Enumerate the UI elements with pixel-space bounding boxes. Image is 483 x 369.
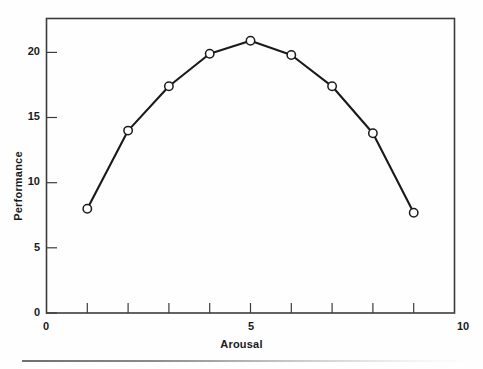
data-point [206, 50, 214, 58]
data-point [165, 82, 173, 90]
x-tick-label-5: 5 [236, 320, 266, 332]
y-tick-label-0: 0 [10, 306, 40, 318]
data-point [328, 82, 336, 90]
x-axis-title: Arousal [0, 338, 483, 350]
figure-canvas: 20 15 10 5 0 0 5 10 Arousal Performance [0, 0, 483, 369]
y-axis-title: Performance [12, 126, 24, 246]
x-tick-label-10: 10 [448, 320, 478, 332]
plot-frame [47, 19, 455, 314]
footer-divider [22, 360, 462, 362]
y-tick-label-20: 20 [10, 45, 40, 57]
data-point [410, 209, 418, 217]
chart-plot [0, 0, 483, 369]
x-tick-label-0: 0 [31, 320, 61, 332]
data-point [369, 129, 377, 137]
data-point [246, 37, 254, 45]
data-point [83, 205, 91, 213]
data-point [124, 126, 132, 134]
data-point [287, 51, 295, 59]
y-tick-label-15: 15 [10, 110, 40, 122]
